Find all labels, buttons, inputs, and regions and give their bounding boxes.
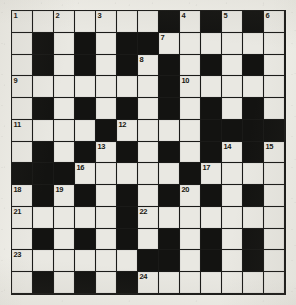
crossword-letter-cell[interactable] (54, 120, 75, 142)
crossword-letter-cell[interactable] (138, 120, 159, 142)
crossword-letter-cell[interactable] (159, 120, 180, 142)
crossword-letter-cell[interactable] (54, 250, 75, 272)
crossword-letter-cell[interactable] (96, 207, 117, 229)
crossword-letter-cell[interactable] (243, 163, 264, 185)
crossword-letter-cell[interactable] (12, 98, 33, 120)
crossword-letter-cell[interactable] (243, 76, 264, 98)
crossword-letter-cell[interactable] (96, 76, 117, 98)
crossword-letter-cell[interactable] (75, 207, 96, 229)
crossword-letter-cell[interactable] (138, 163, 159, 185)
crossword-letter-cell[interactable] (54, 76, 75, 98)
crossword-letter-cell[interactable] (264, 98, 285, 120)
crossword-letter-cell[interactable] (201, 272, 222, 294)
crossword-letter-cell[interactable] (180, 120, 201, 142)
crossword-letter-cell[interactable] (33, 207, 54, 229)
crossword-letter-cell[interactable] (33, 11, 54, 33)
crossword-letter-cell[interactable]: 24 (138, 272, 159, 294)
crossword-letter-cell[interactable] (96, 163, 117, 185)
crossword-letter-cell[interactable] (54, 272, 75, 294)
crossword-letter-cell[interactable] (75, 250, 96, 272)
crossword-letter-cell[interactable] (264, 229, 285, 251)
crossword-letter-cell[interactable] (12, 272, 33, 294)
crossword-letter-cell[interactable]: 10 (180, 76, 201, 98)
crossword-letter-cell[interactable] (222, 229, 243, 251)
crossword-letter-cell[interactable] (12, 142, 33, 164)
crossword-letter-cell[interactable]: 17 (201, 163, 222, 185)
crossword-letter-cell[interactable] (54, 33, 75, 55)
crossword-letter-cell[interactable] (222, 163, 243, 185)
crossword-letter-cell[interactable]: 8 (138, 55, 159, 77)
crossword-letter-cell[interactable] (33, 76, 54, 98)
crossword-letter-cell[interactable] (264, 250, 285, 272)
crossword-letter-cell[interactable] (12, 229, 33, 251)
crossword-letter-cell[interactable] (201, 207, 222, 229)
crossword-letter-cell[interactable] (117, 163, 138, 185)
crossword-letter-cell[interactable] (243, 33, 264, 55)
crossword-letter-cell[interactable]: 19 (54, 185, 75, 207)
crossword-letter-cell[interactable] (138, 76, 159, 98)
crossword-letter-cell[interactable] (264, 163, 285, 185)
crossword-letter-cell[interactable] (180, 98, 201, 120)
crossword-letter-cell[interactable] (54, 229, 75, 251)
crossword-letter-cell[interactable] (138, 11, 159, 33)
crossword-letter-cell[interactable] (264, 76, 285, 98)
crossword-letter-cell[interactable]: 13 (96, 142, 117, 164)
crossword-letter-cell[interactable] (180, 207, 201, 229)
crossword-letter-cell[interactable] (33, 120, 54, 142)
crossword-letter-cell[interactable] (117, 250, 138, 272)
crossword-letter-cell[interactable]: 11 (12, 120, 33, 142)
crossword-letter-cell[interactable] (180, 33, 201, 55)
crossword-letter-cell[interactable] (201, 76, 222, 98)
crossword-letter-cell[interactable] (222, 55, 243, 77)
crossword-letter-cell[interactable] (222, 207, 243, 229)
crossword-letter-cell[interactable] (117, 76, 138, 98)
crossword-letter-cell[interactable] (96, 55, 117, 77)
crossword-letter-cell[interactable] (180, 250, 201, 272)
crossword-letter-cell[interactable] (54, 98, 75, 120)
crossword-letter-cell[interactable] (75, 120, 96, 142)
crossword-letter-cell[interactable] (222, 272, 243, 294)
crossword-letter-cell[interactable] (138, 142, 159, 164)
crossword-letter-cell[interactable] (96, 229, 117, 251)
crossword-letter-cell[interactable]: 16 (75, 163, 96, 185)
crossword-letter-cell[interactable]: 15 (264, 142, 285, 164)
crossword-letter-cell[interactable] (54, 207, 75, 229)
crossword-letter-cell[interactable] (180, 142, 201, 164)
crossword-letter-cell[interactable]: 12 (117, 120, 138, 142)
crossword-letter-cell[interactable] (264, 272, 285, 294)
crossword-letter-cell[interactable] (96, 33, 117, 55)
crossword-letter-cell[interactable] (243, 207, 264, 229)
crossword-letter-cell[interactable]: 9 (12, 76, 33, 98)
crossword-letter-cell[interactable]: 14 (222, 142, 243, 164)
crossword-letter-cell[interactable]: 1 (12, 11, 33, 33)
crossword-letter-cell[interactable]: 3 (96, 11, 117, 33)
crossword-letter-cell[interactable]: 4 (180, 11, 201, 33)
crossword-letter-cell[interactable] (222, 98, 243, 120)
crossword-letter-cell[interactable] (159, 163, 180, 185)
crossword-letter-cell[interactable]: 23 (12, 250, 33, 272)
crossword-letter-cell[interactable] (264, 33, 285, 55)
crossword-letter-cell[interactable]: 5 (222, 11, 243, 33)
crossword-letter-cell[interactable] (264, 207, 285, 229)
crossword-letter-cell[interactable] (264, 185, 285, 207)
crossword-letter-cell[interactable]: 20 (180, 185, 201, 207)
crossword-letter-cell[interactable] (117, 11, 138, 33)
crossword-letter-cell[interactable] (138, 229, 159, 251)
crossword-letter-cell[interactable] (159, 207, 180, 229)
crossword-letter-cell[interactable] (201, 33, 222, 55)
crossword-letter-cell[interactable] (222, 250, 243, 272)
crossword-letter-cell[interactable] (96, 185, 117, 207)
crossword-letter-cell[interactable] (180, 229, 201, 251)
crossword-letter-cell[interactable] (222, 185, 243, 207)
crossword-letter-cell[interactable] (54, 142, 75, 164)
crossword-letter-cell[interactable] (54, 55, 75, 77)
crossword-letter-cell[interactable] (33, 250, 54, 272)
crossword-letter-cell[interactable] (96, 250, 117, 272)
crossword-grid[interactable]: 123456789101112131415161718192021222324 (11, 10, 286, 295)
crossword-letter-cell[interactable]: 18 (12, 185, 33, 207)
crossword-letter-cell[interactable] (75, 11, 96, 33)
crossword-letter-cell[interactable] (138, 185, 159, 207)
crossword-letter-cell[interactable] (159, 272, 180, 294)
crossword-letter-cell[interactable] (243, 272, 264, 294)
crossword-letter-cell[interactable] (96, 272, 117, 294)
